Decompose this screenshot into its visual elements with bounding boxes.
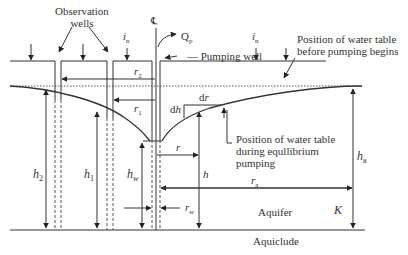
water-table-during-label-line2: during equllibrium [236,145,319,157]
ha-label: ha [357,149,367,165]
aquiclude-label: Aquiclude [253,235,299,247]
dr-label: dr [199,91,210,103]
rw-label: rw [185,201,194,216]
water-table-before-label-line1: Position of water table [297,33,396,45]
h1-label: h1 [84,167,94,183]
pumping-well-label: — Pumping well [186,50,262,62]
hw-label: hw [127,167,139,183]
r-label: r [176,141,181,153]
water-table-during-label-line1: Position of water table [236,133,335,145]
pumping-well [152,28,160,230]
water-table-before-label-line2: before pumping begins [297,45,398,57]
h2-label: h2 [33,167,43,183]
observation-pointer-right [89,27,108,52]
dh-label: dh [170,103,182,115]
hydraulic-conductivity-label: K [333,203,343,217]
observation-wells-label-line2: wells [70,17,93,29]
water-table-during-label-line3: pumping [236,157,276,169]
h-label: h [203,168,209,180]
water-table-during-pointer [227,110,232,143]
pumping-well-pointer [165,56,177,58]
observation-wells-label-line1: Observation [55,5,109,17]
ra-label: ra [251,174,259,189]
centerline-symbol: ℄ [150,15,158,26]
r2-label: r2 [134,65,142,80]
aquifer-label: Aquifer [258,206,293,218]
observation-pointer-left [59,27,72,52]
infiltration-label-right: in [252,30,259,45]
pumping-rate-label: Qp [181,30,193,45]
unconfined-aquifer-pumping-diagram: Observation wells ℄ Qp — Pumping well in… [0,0,408,255]
infiltration-label-left: in [123,30,130,45]
pumping-rate-arrow [158,34,176,47]
r1-label: r1 [134,102,142,117]
drawdown-curve-left [10,86,150,141]
